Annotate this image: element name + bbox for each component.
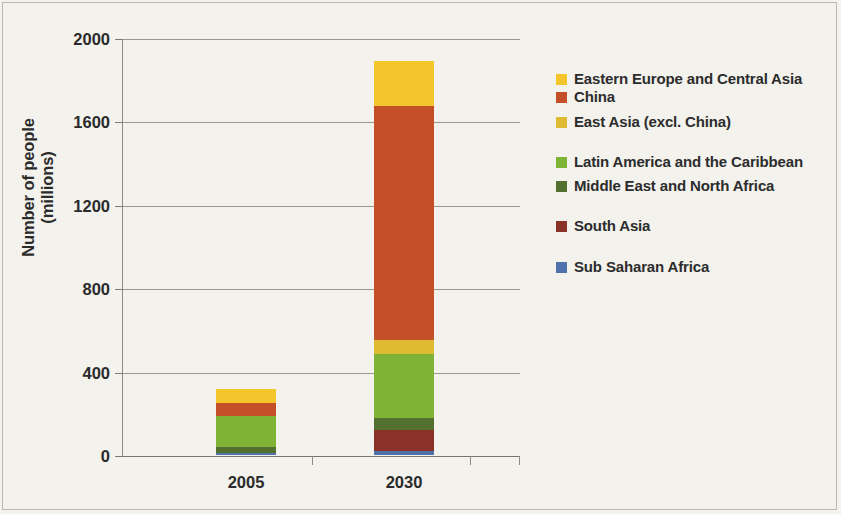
y-tick-label: 800 bbox=[82, 280, 110, 299]
legend-swatch bbox=[556, 117, 567, 128]
legend-label: Eastern Europe and Central Asia bbox=[574, 70, 802, 88]
bar-segment[interactable] bbox=[216, 389, 276, 403]
x-axis-line bbox=[122, 456, 520, 457]
y-tick-mark bbox=[115, 456, 123, 457]
y-tick-mark bbox=[115, 122, 123, 123]
y-tick-mark bbox=[115, 206, 123, 207]
legend-label: East Asia (excl. China) bbox=[574, 113, 731, 131]
y-axis-title: Number of people (millions) bbox=[19, 77, 58, 297]
gridline bbox=[122, 206, 520, 207]
legend-swatch bbox=[556, 221, 567, 232]
y-tick-mark bbox=[115, 289, 123, 290]
legend-item[interactable]: Middle East and North Africa bbox=[556, 177, 836, 195]
x-axis-right-cap bbox=[519, 456, 520, 465]
legend-item[interactable]: Eastern Europe and Central Asia bbox=[556, 70, 836, 88]
x-tick-label: 2005 bbox=[228, 473, 265, 492]
y-tick-label: 1600 bbox=[73, 113, 110, 132]
gridline bbox=[122, 289, 520, 290]
legend-label: South Asia bbox=[574, 217, 650, 235]
legend-item[interactable]: East Asia (excl. China) bbox=[556, 113, 836, 131]
y-axis-line bbox=[122, 39, 123, 457]
legend-item[interactable]: Sub Saharan Africa bbox=[556, 258, 836, 276]
bar-segment[interactable] bbox=[374, 61, 434, 106]
gridline bbox=[122, 39, 520, 40]
legend-swatch bbox=[556, 262, 567, 273]
y-axis-title-line-2: (millions) bbox=[38, 77, 57, 297]
bar-segment[interactable] bbox=[374, 354, 434, 418]
legend-swatch bbox=[556, 157, 567, 168]
legend-item[interactable]: South Asia bbox=[556, 217, 836, 235]
legend-item[interactable]: China bbox=[556, 88, 836, 106]
bar-segment[interactable] bbox=[216, 453, 276, 456]
bar-segment[interactable] bbox=[374, 418, 434, 430]
y-tick-label: 400 bbox=[82, 363, 110, 382]
stacked-bar[interactable] bbox=[374, 61, 434, 455]
legend-label: Sub Saharan Africa bbox=[574, 258, 709, 276]
bar-segment[interactable] bbox=[216, 416, 276, 447]
bar-segment[interactable] bbox=[216, 403, 276, 416]
y-tick-label: 1200 bbox=[73, 196, 110, 215]
bar-segment[interactable] bbox=[374, 106, 434, 340]
x-tick-mark bbox=[470, 456, 471, 465]
legend-item[interactable]: Latin America and the Caribbean bbox=[556, 153, 836, 171]
gridline bbox=[122, 373, 520, 374]
legend-label: Middle East and North Africa bbox=[574, 177, 774, 195]
plot-area: 0400800120016002000 20052030 bbox=[122, 39, 520, 456]
legend-label: China bbox=[574, 88, 615, 106]
legend-swatch bbox=[556, 181, 567, 192]
y-tick-mark bbox=[115, 39, 123, 40]
x-tick-label: 2030 bbox=[386, 473, 423, 492]
bar-segment[interactable] bbox=[374, 430, 434, 451]
gridline bbox=[122, 122, 520, 123]
stacked-bar[interactable] bbox=[216, 389, 276, 455]
y-tick-label: 0 bbox=[101, 447, 110, 466]
legend-swatch bbox=[556, 74, 567, 85]
bar-segment[interactable] bbox=[374, 451, 434, 455]
y-tick-label: 2000 bbox=[73, 30, 110, 49]
bar-segment[interactable] bbox=[374, 340, 434, 354]
y-axis-title-line-1: Number of people bbox=[19, 77, 38, 297]
y-tick-mark bbox=[115, 373, 123, 374]
legend-swatch bbox=[556, 92, 567, 103]
chart-figure: Number of people (millions) 040080012001… bbox=[0, 0, 841, 514]
x-tick-mark bbox=[312, 456, 313, 465]
legend-label: Latin America and the Caribbean bbox=[574, 153, 803, 171]
chart-legend: Eastern Europe and Central AsiaChinaEast… bbox=[556, 70, 836, 276]
